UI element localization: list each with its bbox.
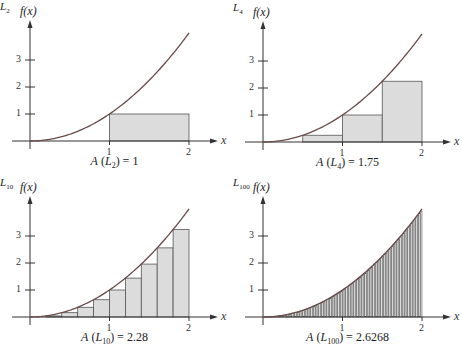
y-axis-label: f(x)	[253, 5, 270, 20]
area-caption: A (L2) = 1	[0, 154, 229, 170]
sum-label: L100	[233, 176, 250, 191]
y-tick-label: 2	[16, 256, 21, 267]
x-axis-label: x	[221, 309, 226, 324]
x-axis-label: x	[454, 309, 459, 324]
y-tick-label: 2	[249, 81, 254, 92]
riemann-rectangles	[110, 114, 190, 141]
panel-l100: f(x)12312xL100A (L100) = 2.6268	[233, 176, 462, 352]
panel-l2: f(x)12312xL2A (L2) = 1	[0, 0, 229, 176]
riemann-rectangles	[265, 211, 422, 317]
y-tick-label: 3	[16, 229, 21, 240]
x-axis-arrow-icon	[210, 139, 218, 144]
y-tick-label: 3	[249, 229, 254, 240]
y-tick-label: 2	[249, 256, 254, 267]
y-axis-arrow-icon	[261, 21, 266, 29]
y-tick-label: 1	[16, 283, 21, 294]
x-axis-arrow-icon	[210, 315, 218, 320]
y-tick-label: 3	[16, 53, 21, 64]
y-tick-label: 1	[249, 108, 254, 119]
panel-l10: f(x)12312xL10A (L10) = 2.28	[0, 176, 229, 352]
panel-l4: f(x)12312xL4A (L4) = 1.75	[233, 1, 462, 177]
riemann-rectangles	[46, 230, 189, 317]
sum-label: L2	[0, 0, 10, 15]
plot-area	[0, 176, 229, 352]
plot-area	[233, 176, 462, 352]
riemann-rectangles	[303, 81, 422, 142]
y-tick-label: 1	[16, 107, 21, 118]
area-caption: A (L100) = 2.6268	[233, 330, 462, 346]
y-tick-label: 1	[249, 283, 254, 294]
y-axis-label: f(x)	[20, 180, 37, 195]
x-axis-label: x	[221, 133, 226, 148]
x-axis-arrow-icon	[443, 140, 451, 145]
plot-area	[233, 1, 462, 177]
y-axis-arrow-icon	[261, 196, 266, 204]
area-caption: A (L4) = 1.75	[233, 155, 462, 171]
plot-area	[0, 0, 229, 176]
y-tick-label: 2	[16, 80, 21, 91]
sum-label: L10	[0, 176, 13, 191]
x-axis-arrow-icon	[443, 315, 451, 320]
y-axis-label: f(x)	[253, 180, 270, 195]
y-tick-label: 3	[249, 54, 254, 65]
y-axis-arrow-icon	[28, 20, 33, 28]
sum-label: L4	[233, 1, 243, 16]
area-caption: A (L10) = 2.28	[0, 330, 229, 346]
x-axis-label: x	[454, 134, 459, 149]
y-axis-label: f(x)	[20, 4, 37, 19]
y-axis-arrow-icon	[28, 196, 33, 204]
